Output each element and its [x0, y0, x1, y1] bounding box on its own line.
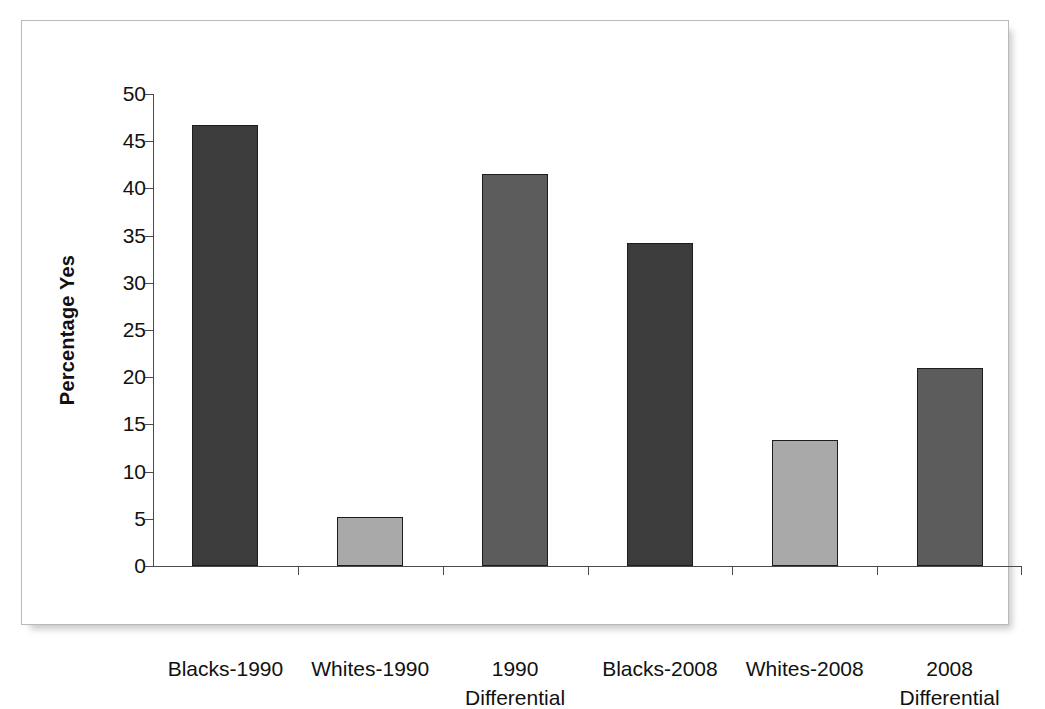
x-axis-category-label: 1990 Differential: [443, 654, 588, 709]
x-axis-category-label: Blacks-2008: [588, 654, 733, 683]
y-axis-tick-label: 50: [123, 82, 146, 106]
y-axis-tick-label: 25: [123, 318, 146, 342]
y-axis-tick: [145, 236, 153, 237]
bar: [337, 517, 403, 566]
y-axis-tick: [145, 94, 153, 95]
y-axis-tick: [145, 188, 153, 189]
x-axis-tick: [443, 566, 444, 575]
figure-frame: Percentage Yes 05101520253035404550 Blac…: [21, 20, 1009, 625]
bar: [917, 368, 983, 566]
y-axis-tick: [145, 566, 153, 567]
x-axis-tick: [1021, 566, 1022, 575]
y-axis-tick: [145, 424, 153, 425]
y-axis-tick-label: 10: [123, 460, 146, 484]
y-axis-tick-label: 15: [123, 412, 146, 436]
y-axis-tick-label: 30: [123, 271, 146, 295]
y-axis-tick-label: 40: [123, 176, 146, 200]
bar: [192, 125, 258, 566]
y-axis-tick-label: 0: [134, 554, 146, 578]
y-axis-tick: [145, 519, 153, 520]
bar: [482, 174, 548, 566]
y-axis-tick-label: 45: [123, 129, 146, 153]
y-axis-tick-label: 20: [123, 365, 146, 389]
y-axis-title: Percentage Yes: [53, 94, 81, 566]
x-axis-category-label: Blacks-1990: [153, 654, 298, 683]
y-axis-tick-label: 5: [134, 507, 146, 531]
y-axis-tick: [145, 141, 153, 142]
x-axis-tick: [298, 566, 299, 575]
y-axis-tick: [145, 377, 153, 378]
y-axis-tick-label: 35: [123, 224, 146, 248]
x-axis-category-label: Whites-2008: [732, 654, 877, 683]
y-axis-tick: [145, 330, 153, 331]
y-axis-line: [153, 94, 154, 566]
x-axis-category-label: Whites-1990: [298, 654, 443, 683]
bar: [627, 243, 693, 566]
x-axis-tick: [732, 566, 733, 575]
y-axis-tick: [145, 283, 153, 284]
bar: [772, 440, 838, 566]
x-axis-tick: [588, 566, 589, 575]
y-axis-tick: [145, 472, 153, 473]
x-axis-tick: [877, 566, 878, 575]
x-axis-category-label: 2008 Differential: [877, 654, 1022, 709]
plot-area: 05101520253035404550 Blacks-1990Whites-1…: [153, 94, 1022, 566]
